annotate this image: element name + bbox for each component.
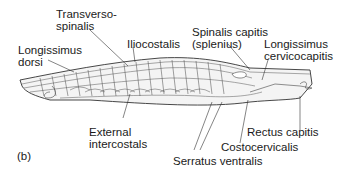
label-external-intercostals: External intercostals <box>89 126 147 150</box>
label-longissimus-dorsi: Longissimus dorsi <box>18 44 82 68</box>
label-longissimus-cervicocapitis: Longissimus cervicocapitis <box>264 38 333 62</box>
panel-label: (b) <box>17 150 31 162</box>
label-spinalis-capitis: Spinalis capitis (splenius) <box>192 26 268 50</box>
label-rectus-capitis: Rectus capitis <box>247 126 319 138</box>
label-serratus-ventralis: Serratus ventralis <box>173 155 262 167</box>
label-iliocostalis: Iliocostalis <box>127 38 180 50</box>
label-transversospinalis: Transverso- spinalis <box>56 8 117 32</box>
label-costocervicalis: Costocervicalis <box>221 141 298 153</box>
